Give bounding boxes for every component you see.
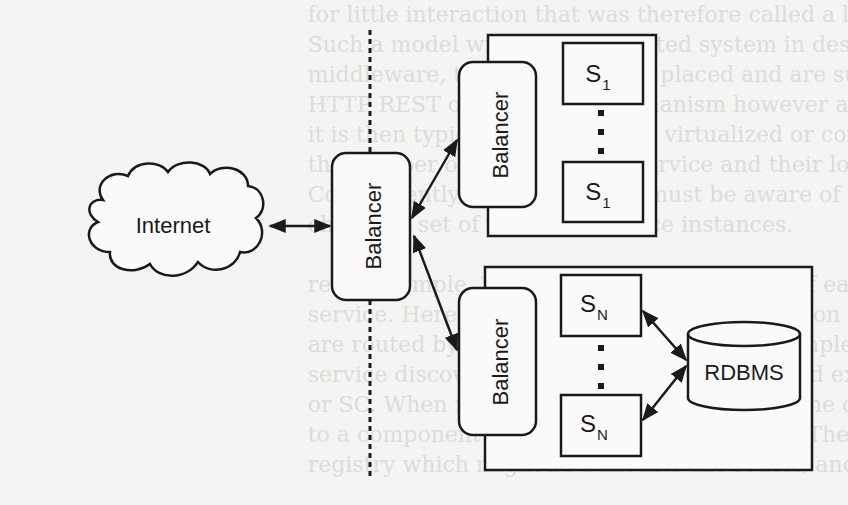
bottom-balancer-label: Balancer xyxy=(488,319,513,406)
top-server-2-box: S1 xyxy=(563,162,643,222)
top-cluster: Balancer S1 S1 xyxy=(459,35,656,236)
bottom-server-2-box: SN xyxy=(561,395,641,456)
architecture-diagram: Internet Balancer Balancer S1 xyxy=(0,0,848,505)
server-label: S xyxy=(580,410,596,437)
internet-label: Internet xyxy=(136,213,211,238)
central-balancer-box: Balancer xyxy=(332,153,410,300)
server-subscript: N xyxy=(597,306,608,323)
central-to-top-balancer-arrow xyxy=(412,140,457,218)
bottom-cluster-balancer-box: Balancer xyxy=(459,288,536,435)
server-label: S xyxy=(580,290,596,317)
central-to-bottom-balancer-arrow xyxy=(414,236,457,350)
bottom-cluster: Balancer SN SN RDBMS xyxy=(459,267,812,470)
central-balancer-label: Balancer xyxy=(361,183,386,270)
server-subscript: N xyxy=(597,426,608,443)
top-cluster-balancer-box: Balancer xyxy=(459,62,536,207)
internet-cloud-icon: Internet xyxy=(89,162,263,275)
server-label: S xyxy=(585,60,601,87)
top-balancer-label: Balancer xyxy=(488,92,513,179)
server-subscript: 1 xyxy=(602,76,610,93)
server-subscript: 1 xyxy=(602,194,610,211)
server-label: S xyxy=(585,178,601,205)
rdbms-label: RDBMS xyxy=(704,360,783,385)
bottom-server-1-box: SN xyxy=(561,275,641,336)
rdbms-database-icon: RDBMS xyxy=(688,322,800,410)
top-server-1-box: S1 xyxy=(563,43,643,104)
